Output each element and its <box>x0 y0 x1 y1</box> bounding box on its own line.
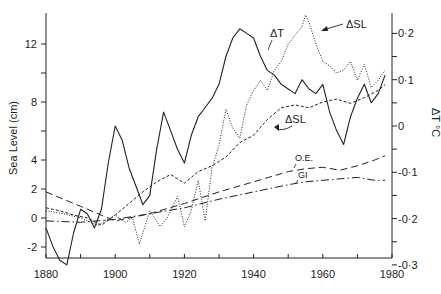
y-tick-label-left: -2 <box>27 241 37 253</box>
annotation-delta-t: ΔT <box>270 27 284 39</box>
y-tick-label-left: 4 <box>31 154 37 166</box>
series-line-1 <box>46 15 385 244</box>
annotations: ΔT ΔSL ΔSL O.E. GI <box>268 18 367 184</box>
y-tick-label-left: 8 <box>31 96 37 108</box>
x-tick-label: 1960 <box>311 268 335 280</box>
annotation-gi: GI <box>298 170 308 180</box>
annotation-delta-t-pointer <box>268 40 272 50</box>
series-line-2 <box>46 85 385 226</box>
x-tick-label: 1880 <box>34 268 58 280</box>
x-tick-label: 1900 <box>103 268 127 280</box>
y-axis-title-right: ΔT °C <box>430 108 441 137</box>
y-tick-label-right: 0 <box>398 120 404 132</box>
annotation-delta-sl-mid: ΔSL <box>285 113 306 125</box>
arrowhead-icon <box>274 124 279 131</box>
y-tick-label-right: -0·3 <box>398 259 418 271</box>
arrowhead-icon <box>321 26 328 31</box>
annotation-oe: O.E. <box>295 153 313 163</box>
sea-level-temperature-chart: 188019001920194019601980-20248120·20·10-… <box>0 0 441 294</box>
y-axis-title-left: Sea Level (cm) <box>7 101 19 175</box>
y-tick-label-right: -0·2 <box>398 213 418 225</box>
series-lines <box>46 15 385 265</box>
y-tick-label-left: 12 <box>25 38 37 50</box>
series-line-3 <box>46 156 385 221</box>
series-line-4 <box>46 177 385 222</box>
y-tick-label-right: 0·1 <box>398 74 414 86</box>
y-tick-label-left: 0 <box>31 212 37 224</box>
x-tick-label: 1940 <box>241 268 265 280</box>
series-line-0 <box>46 29 385 265</box>
y-tick-label-right: 0·2 <box>398 27 414 39</box>
x-tick-label: 1920 <box>172 268 196 280</box>
y-tick-label-left: 2 <box>31 183 37 195</box>
annotation-oe-pointer <box>294 164 296 168</box>
axes: 188019001920194019601980-20248120·20·10-… <box>25 13 418 280</box>
annotation-delta-sl-top: ΔSL <box>346 18 367 30</box>
y-tick-label-right: -0·1 <box>398 166 418 178</box>
